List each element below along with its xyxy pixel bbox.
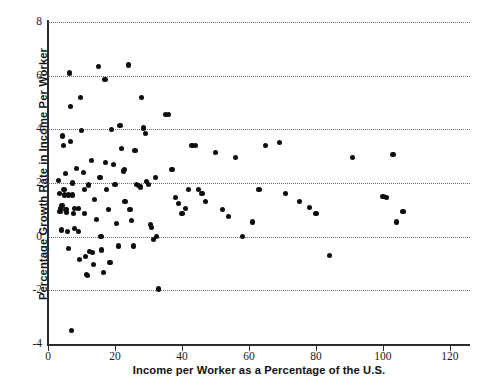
- gridline-y: [48, 290, 470, 291]
- data-point: [76, 229, 81, 234]
- data-point: [193, 143, 198, 148]
- data-point: [183, 206, 188, 211]
- x-tick-label: 20: [95, 351, 135, 363]
- data-point: [220, 207, 225, 212]
- data-point: [68, 139, 73, 144]
- data-point: [149, 225, 154, 230]
- data-point: [129, 218, 134, 223]
- data-point: [64, 210, 69, 215]
- data-point: [94, 217, 99, 222]
- data-point: [384, 195, 389, 200]
- data-point: [169, 167, 174, 172]
- data-point: [146, 182, 151, 187]
- data-point: [91, 262, 96, 267]
- data-point: [77, 257, 82, 262]
- data-point: [394, 219, 399, 224]
- data-point: [116, 243, 121, 248]
- data-point: [307, 205, 312, 210]
- data-point: [59, 227, 64, 232]
- x-axis-line: [47, 344, 470, 346]
- y-tick-label: 8: [16, 16, 42, 28]
- data-point: [297, 199, 302, 204]
- y-tick-label: 0: [16, 231, 42, 243]
- data-point: [89, 158, 94, 163]
- data-point: [199, 191, 204, 196]
- data-point: [350, 155, 355, 160]
- data-point: [233, 155, 238, 160]
- data-point: [60, 133, 65, 138]
- x-tick-label: 120: [430, 351, 470, 363]
- data-point: [240, 234, 245, 239]
- y-tick-label: 2: [16, 177, 42, 189]
- data-point: [82, 187, 87, 192]
- data-point: [85, 273, 90, 278]
- data-point: [390, 152, 395, 157]
- data-point: [154, 234, 159, 239]
- data-point: [70, 192, 75, 197]
- x-axis-title: Income per Worker as a Percentage of the…: [48, 364, 470, 376]
- data-point: [111, 162, 116, 167]
- data-point: [107, 260, 112, 265]
- data-point: [90, 250, 95, 255]
- data-point: [226, 214, 231, 219]
- data-point: [69, 328, 74, 333]
- data-point: [131, 243, 136, 248]
- data-point: [76, 206, 81, 211]
- data-point: [153, 175, 158, 180]
- x-tick-label: 0: [28, 351, 68, 363]
- x-tick-label: 60: [229, 351, 269, 363]
- data-point: [67, 70, 72, 75]
- data-point: [122, 199, 127, 204]
- data-point: [138, 184, 143, 189]
- data-point: [81, 170, 86, 175]
- data-point: [68, 104, 73, 109]
- data-point: [65, 229, 70, 234]
- y-tick-label: -4: [16, 338, 42, 350]
- data-point: [256, 187, 261, 192]
- data-point: [74, 166, 79, 171]
- data-point: [109, 127, 114, 132]
- y-tick-label: 4: [16, 123, 42, 135]
- gridline-y: [48, 76, 470, 77]
- data-point: [119, 146, 124, 151]
- data-point: [166, 112, 171, 117]
- data-point: [122, 167, 127, 172]
- gridline-y: [48, 183, 470, 184]
- data-point: [179, 211, 184, 216]
- data-point: [400, 209, 405, 214]
- data-point: [83, 254, 88, 259]
- data-point: [114, 221, 119, 226]
- data-point: [250, 219, 255, 224]
- data-point: [97, 175, 102, 180]
- data-point: [66, 246, 71, 251]
- scatter-plot-figure: Percentage Growth Rate in Income Per Wor…: [0, 0, 490, 387]
- data-point: [203, 199, 208, 204]
- data-point: [61, 143, 66, 148]
- data-point: [277, 140, 282, 145]
- data-point: [102, 77, 107, 82]
- data-point: [106, 207, 111, 212]
- data-point: [126, 62, 131, 67]
- data-point: [70, 180, 75, 185]
- data-point: [117, 123, 122, 128]
- plot-area: [48, 22, 470, 344]
- data-point: [101, 270, 106, 275]
- gridline-y: [48, 22, 470, 23]
- data-point: [127, 207, 132, 212]
- data-point: [143, 131, 148, 136]
- data-point: [139, 95, 144, 100]
- data-point: [176, 201, 181, 206]
- x-tick-label: 40: [162, 351, 202, 363]
- y-tick-label: -2: [16, 284, 42, 296]
- data-point: [82, 211, 87, 216]
- data-point: [63, 171, 68, 176]
- data-point: [141, 125, 146, 130]
- y-tick-label: 6: [16, 70, 42, 82]
- data-point: [186, 187, 191, 192]
- data-point: [283, 191, 288, 196]
- data-point: [104, 187, 109, 192]
- gridline-y: [48, 237, 470, 238]
- data-point: [156, 286, 161, 291]
- data-point: [263, 143, 268, 148]
- data-point: [112, 182, 117, 187]
